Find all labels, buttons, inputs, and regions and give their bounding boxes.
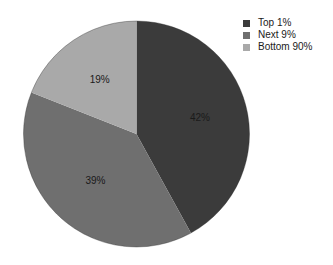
- legend-swatch: [243, 32, 250, 39]
- legend-swatch: [243, 20, 250, 27]
- legend: Top 1% Next 9% Bottom 90%: [243, 17, 312, 53]
- slice-label: 42%: [190, 112, 210, 123]
- legend-label: Top 1%: [258, 17, 291, 29]
- slice-label: 19%: [90, 74, 110, 85]
- legend-label: Next 9%: [258, 29, 296, 41]
- pie-slices: [23, 21, 249, 247]
- legend-item-next-9: Next 9%: [243, 29, 312, 41]
- slice-label: 39%: [85, 175, 105, 186]
- legend-swatch: [243, 44, 250, 51]
- legend-item-top-1: Top 1%: [243, 17, 312, 29]
- legend-item-bottom-90: Bottom 90%: [243, 41, 312, 53]
- legend-label: Bottom 90%: [258, 41, 312, 53]
